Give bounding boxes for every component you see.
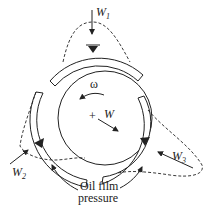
w2-label: W2 bbox=[12, 165, 26, 181]
w3-label: W3 bbox=[172, 149, 186, 165]
w2-arrow bbox=[10, 150, 28, 164]
w1-label: W1 bbox=[96, 5, 110, 21]
pad-left bbox=[30, 92, 87, 187]
bearing-diagram: W1 W2 W3 W ω + Oil film pressure bbox=[0, 0, 215, 210]
caption-line2: pressure bbox=[78, 191, 118, 205]
pressure-profile-top bbox=[63, 22, 130, 62]
omega-label: ω bbox=[90, 77, 98, 91]
center-mark: + bbox=[89, 109, 96, 123]
w-label: W bbox=[104, 107, 115, 121]
pivot-top-icon bbox=[86, 45, 100, 53]
rotation-arrow bbox=[80, 93, 104, 99]
